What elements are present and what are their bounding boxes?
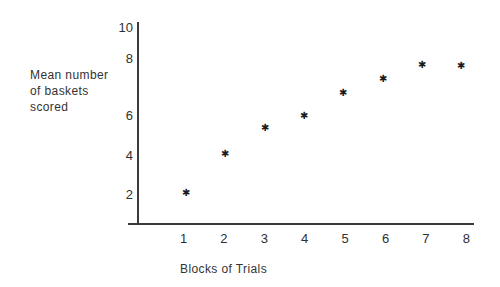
asterisk-marker-icon: ✱ xyxy=(261,123,269,133)
y-axis-label-line-3: scored xyxy=(30,99,108,115)
asterisk-marker-icon: ✱ xyxy=(418,60,426,70)
x-tick-label: 5 xyxy=(334,231,356,246)
y-axis-label-line-1: Mean number xyxy=(30,67,108,83)
x-tick-label: 2 xyxy=(213,231,235,246)
y-axis-label-line-2: of baskets xyxy=(30,83,108,99)
y-tick-label: 2 xyxy=(100,187,133,203)
asterisk-marker-icon: ✱ xyxy=(379,74,387,84)
x-axis-label: Blocks of Trials xyxy=(180,262,267,276)
y-axis-line xyxy=(137,22,139,223)
asterisk-marker-icon: ✱ xyxy=(339,88,347,98)
x-tick-label: 1 xyxy=(173,231,195,246)
x-tick-label: 4 xyxy=(294,231,316,246)
y-tick-label: 10 xyxy=(100,20,133,36)
asterisk-marker-icon: ✱ xyxy=(182,188,190,198)
asterisk-marker-icon: ✱ xyxy=(221,149,229,159)
x-tick-label: 7 xyxy=(415,231,437,246)
x-tick-label: 8 xyxy=(455,231,477,246)
y-tick-label: 6 xyxy=(100,108,133,124)
asterisk-marker-icon: ✱ xyxy=(300,111,308,121)
y-tick-label: 4 xyxy=(100,148,133,164)
x-axis-line xyxy=(128,223,474,225)
asterisk-marker-icon: ✱ xyxy=(457,61,465,71)
y-axis-label: Mean number of baskets scored xyxy=(30,67,108,115)
x-tick-label: 6 xyxy=(375,231,397,246)
x-tick-label: 3 xyxy=(253,231,275,246)
scatter-plot-figure: Mean number of baskets scored 246810 123… xyxy=(0,0,500,287)
y-tick-label: 8 xyxy=(100,51,133,67)
